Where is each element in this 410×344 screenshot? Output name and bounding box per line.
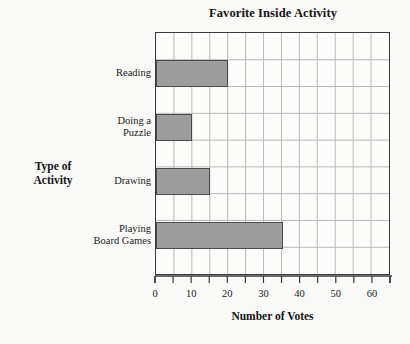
x-axis-ticks [147,275,398,289]
x-tick-label: 20 [212,288,242,299]
chart-title: Favorite Inside Activity [155,6,391,21]
x-tick-label: 40 [285,288,315,299]
category-label: Reading [31,67,151,79]
x-tick-label: 60 [357,288,387,299]
bars-layer [156,33,389,274]
x-tick-label: 10 [176,288,206,299]
x-tick-label: 0 [140,288,170,299]
bar [156,60,228,87]
category-label: Playing Board Games [31,223,151,246]
bar [156,114,192,141]
bar-chart-figure: Favorite Inside Activity ReadingDoing a … [0,0,410,344]
bar [156,222,283,249]
y-axis-title: Type of Activity [10,160,96,187]
x-tick-label: 50 [321,288,351,299]
bar [156,168,210,195]
category-label: Doing a Puzzle [31,115,151,138]
x-axis-title: Number of Votes [155,310,390,322]
category-axis-labels: ReadingDoing a PuzzleDrawingPlaying Boar… [28,32,151,275]
x-axis: 0102030405060 [155,275,390,305]
x-tick-label: 30 [248,288,278,299]
plot-area [155,32,390,275]
